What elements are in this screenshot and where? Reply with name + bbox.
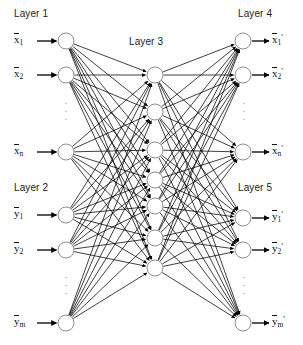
network-node	[147, 198, 163, 214]
network-edge	[163, 116, 235, 149]
network-node	[235, 315, 251, 331]
variable-label-l2n3: ym	[14, 315, 25, 329]
ellipsis-layer2: ···	[63, 274, 69, 298]
layer-title-layer1: Layer 1	[14, 8, 48, 19]
ellipsis-layer5: ···	[241, 274, 247, 298]
network-node	[58, 315, 74, 331]
network-node	[235, 242, 251, 258]
network-node	[58, 207, 74, 223]
network-edge	[73, 46, 148, 106]
network-node	[58, 67, 74, 83]
network-edge	[74, 78, 146, 108]
network-edge	[163, 155, 234, 178]
network-edge	[163, 239, 233, 249]
variable-label-l2n2: y2	[14, 242, 23, 256]
network-edge	[74, 44, 146, 72]
variable-label-l5n3: ym'	[272, 315, 285, 329]
ellipsis-layer1: ···	[63, 100, 69, 124]
ellipsis-layer4: ···	[241, 100, 247, 124]
network-edge	[162, 47, 236, 107]
network-edge	[158, 50, 240, 260]
network-edge	[159, 82, 238, 210]
variable-label-l2n1: y1	[14, 207, 23, 221]
network-edge	[69, 49, 151, 259]
network-node	[147, 67, 163, 83]
network-edge	[71, 82, 150, 198]
variable-label-l1n2: x2	[14, 67, 23, 81]
network-edge	[70, 188, 149, 316]
variable-label-l1n1: x1	[14, 33, 23, 47]
network-edge	[159, 49, 239, 198]
network-edge	[162, 273, 235, 318]
network-edge	[158, 120, 239, 314]
layer-title-layer4: Layer 4	[238, 8, 272, 19]
network-edge	[74, 252, 145, 266]
variable-label-l5n2: y2'	[272, 242, 283, 256]
network-node	[147, 230, 163, 246]
variable-label-l5n1: y1'	[272, 210, 283, 224]
network-canvas	[0, 0, 303, 345]
network-edge	[163, 44, 234, 72]
network-node	[235, 33, 251, 49]
network-edge	[160, 119, 237, 211]
network-edge	[74, 155, 146, 178]
variable-label-l4n3: xn'	[272, 144, 283, 158]
network-node	[58, 33, 74, 49]
network-edge	[71, 83, 150, 208]
variable-label-l4n1: x1'	[272, 33, 283, 47]
neural-network-diagram: Layer 1Layer 2Layer 3Layer 4Layer 5 x1x2…	[0, 0, 303, 345]
network-edge	[71, 214, 149, 317]
network-node	[147, 142, 163, 158]
network-edge	[70, 49, 152, 230]
variable-label-l4n2: x2'	[272, 67, 283, 81]
network-node	[235, 144, 251, 160]
network-edge	[163, 220, 233, 236]
variable-label-l1n3: xn	[14, 144, 23, 158]
network-edge	[69, 121, 151, 315]
network-node	[235, 67, 251, 83]
network-node	[147, 260, 163, 276]
layer-title-layer3: Layer 3	[129, 36, 163, 47]
network-edge	[75, 150, 146, 152]
network-node	[235, 210, 251, 226]
network-node	[147, 172, 163, 188]
layer-title-layer2: Layer 2	[14, 182, 48, 193]
network-node	[147, 104, 163, 120]
network-edge	[74, 116, 147, 149]
layer-title-layer5: Layer 5	[238, 182, 272, 193]
network-node	[58, 144, 74, 160]
network-edge	[70, 83, 151, 260]
network-edge	[70, 48, 150, 197]
network-node	[58, 242, 74, 258]
